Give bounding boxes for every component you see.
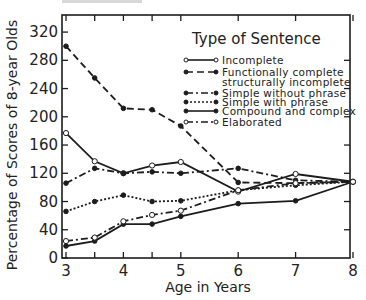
- filled-circle-marker: [121, 171, 126, 176]
- filled-circle-marker: [92, 166, 97, 171]
- filled-circle-marker: [121, 106, 126, 111]
- open-circle-marker: [150, 163, 155, 168]
- legend-item: Incomplete: [184, 54, 284, 66]
- open-circle-marker: [63, 130, 68, 135]
- y-tick-label: 160: [29, 136, 58, 154]
- plot-border: [62, 15, 350, 258]
- open-circle-marker: [92, 159, 97, 164]
- y-tick-label: 40: [39, 221, 58, 239]
- x-tick-label: 8: [348, 262, 358, 280]
- legend-marker: [214, 109, 218, 113]
- legend-marker: [184, 91, 188, 95]
- filled-circle-marker: [64, 244, 69, 249]
- legend: Type of Sentence IncompleteFunctionally …: [184, 30, 356, 128]
- legend-marker: [184, 120, 188, 124]
- filled-circle-marker: [293, 199, 298, 204]
- series-line: [66, 182, 353, 246]
- filled-circle-marker: [64, 44, 69, 49]
- x-tick-label: 7: [291, 262, 301, 280]
- series-compound-and-complex: [64, 179, 356, 248]
- series-incomplete: [63, 130, 355, 194]
- x-tick-label: 6: [233, 262, 243, 280]
- legend-title: Type of Sentence: [191, 30, 321, 48]
- y-tick-label: 240: [29, 80, 58, 98]
- filled-circle-marker: [64, 181, 69, 186]
- filled-circle-marker: [64, 209, 69, 214]
- legend-marker: [214, 100, 218, 104]
- legend-marker: [184, 70, 188, 74]
- open-circle-marker: [178, 159, 183, 164]
- filled-circle-marker: [121, 193, 126, 198]
- y-tick-label: 80: [39, 193, 58, 211]
- open-circle-marker: [293, 171, 298, 176]
- x-axis-label: Age in Years: [165, 279, 251, 295]
- filled-circle-marker: [236, 166, 241, 171]
- y-tick-label: 200: [29, 108, 58, 126]
- filled-circle-marker: [92, 76, 97, 81]
- legend-marker: [184, 100, 188, 104]
- legend-marker: [214, 58, 218, 62]
- open-circle-marker: [293, 181, 298, 186]
- filled-circle-marker: [92, 199, 97, 204]
- legend-label: Elaborated: [222, 116, 282, 128]
- line-chart: 34567804080120160200240280320 Percentage…: [0, 0, 366, 300]
- x-tick-label: 5: [176, 262, 186, 280]
- tick-labels: 34567804080120160200240280320: [29, 23, 357, 280]
- open-circle-marker: [236, 188, 241, 193]
- legend-label: Incomplete: [222, 54, 284, 66]
- filled-circle-marker: [179, 199, 184, 204]
- axis-ticks: [62, 15, 353, 258]
- open-circle-marker: [92, 235, 97, 240]
- y-tick-label: 280: [29, 51, 58, 69]
- legend-items: IncompleteFunctionally completestructura…: [184, 54, 356, 128]
- legend-marker: [184, 109, 188, 113]
- open-circle-marker: [63, 238, 68, 243]
- filled-circle-marker: [179, 171, 184, 176]
- y-tick-label: 120: [29, 164, 58, 182]
- y-axis-label: Percentage of Scores of 8-year Olds: [4, 20, 20, 271]
- open-circle-marker: [178, 208, 183, 213]
- filled-circle-marker: [150, 222, 155, 227]
- legend-marker: [214, 70, 218, 74]
- filled-circle-marker: [236, 180, 241, 185]
- filled-circle-marker: [179, 124, 184, 129]
- plot-frame: [62, 15, 350, 258]
- open-circle-marker: [121, 219, 126, 224]
- legend-marker: [214, 120, 218, 124]
- y-tick-label: 320: [29, 23, 58, 41]
- x-tick-label: 3: [61, 262, 71, 280]
- filled-circle-marker: [150, 170, 155, 175]
- open-circle-marker: [150, 212, 155, 217]
- y-tick-label: 0: [48, 249, 58, 267]
- series-simple-with-phrase: [64, 179, 356, 213]
- legend-marker: [184, 58, 188, 62]
- legend-item: Functionally completestructurally incomp…: [184, 66, 351, 88]
- open-circle-marker: [350, 179, 355, 184]
- x-tick-label: 4: [119, 262, 129, 280]
- legend-marker: [214, 91, 218, 95]
- filled-circle-marker: [179, 214, 184, 219]
- filled-circle-marker: [150, 107, 155, 112]
- filled-circle-marker: [236, 201, 241, 206]
- legend-item: Elaborated: [184, 116, 282, 128]
- filled-circle-marker: [150, 199, 155, 204]
